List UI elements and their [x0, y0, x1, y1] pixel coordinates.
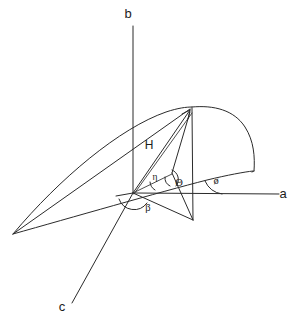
curved-surface-group	[13, 107, 254, 234]
vector-group	[133, 110, 193, 220]
axis-group	[72, 26, 279, 303]
axis-label-c: c	[59, 299, 66, 314]
angle-theta-arc	[165, 177, 170, 186]
axis-a-stub-line	[116, 193, 133, 196]
diagram-canvas: b a c H β η Θ ø	[0, 0, 300, 324]
angle-label-eta: η	[153, 172, 158, 182]
angle-label-beta: β	[145, 202, 150, 213]
vector-H-line-secondary	[134, 113, 192, 194]
angle-label-theta: Θ	[175, 177, 183, 188]
projection-base-line	[133, 193, 193, 220]
axis-c-line	[72, 193, 133, 303]
vector-angle-diagram: b a c H β η Θ ø	[0, 0, 300, 324]
label-group: b a c H β η Θ ø	[59, 6, 288, 314]
axis-label-b: b	[124, 6, 131, 21]
angle-label-phi: ø	[213, 175, 218, 186]
vector-label-H: H	[145, 138, 154, 152]
surface-ruling-vertical	[192, 108, 193, 220]
theta-upper-line	[172, 112, 190, 173]
surface-ruling-left	[13, 109, 190, 234]
surface-crown-curve	[192, 107, 254, 171]
axis-label-a: a	[279, 186, 287, 201]
